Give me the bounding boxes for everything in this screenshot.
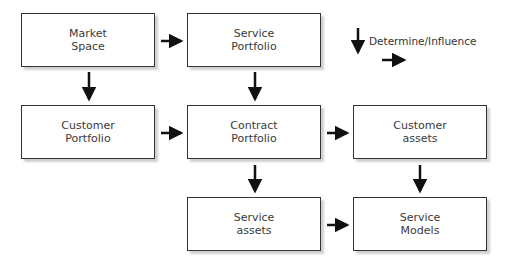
node-customer-portfolio: Customer Portfolio	[21, 105, 155, 159]
node-service-models: Service Models	[353, 197, 487, 251]
node-contract-portfolio: Contract Portfolio	[187, 105, 321, 159]
node-service-portfolio: Service Portfolio	[187, 13, 321, 67]
node-market-space: Market Space	[21, 13, 155, 67]
node-customer-assets: Customer assets	[353, 105, 487, 159]
node-service-assets: Service assets	[187, 197, 321, 251]
legend-label: Determine/Influence	[369, 35, 476, 47]
